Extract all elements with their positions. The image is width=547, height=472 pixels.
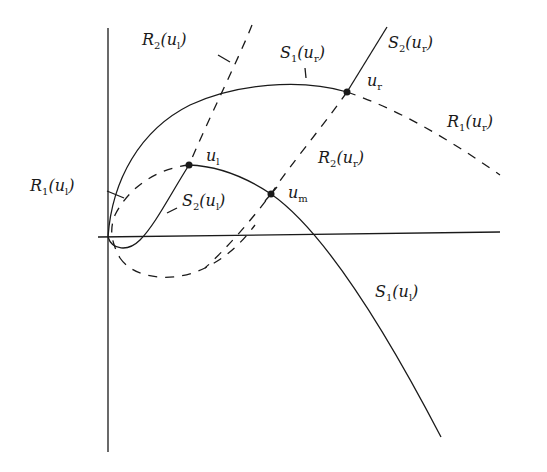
wave-curve-diagram: R2(ul) S1(ur) S2(ur) R1(ur) R2(ur) R1(ul… bbox=[0, 0, 547, 472]
curve-R1-ul-loop bbox=[120, 225, 255, 277]
curve-R2-ul bbox=[189, 25, 252, 165]
curve-S1-ur bbox=[108, 84, 347, 237]
curve-R1-ul bbox=[112, 165, 189, 258]
label-S1-ur: S1(ur) bbox=[280, 45, 325, 64]
label-point-u-m: um bbox=[288, 185, 308, 204]
label-point-u-r: ur bbox=[367, 73, 382, 92]
label-R2-ul: R2(ul) bbox=[142, 32, 186, 51]
leader-S2-ul bbox=[167, 208, 177, 213]
label-R2-ur: R2(ur) bbox=[318, 150, 364, 169]
label-R1-ul: R1(ul) bbox=[30, 178, 74, 197]
leader-R2-ul bbox=[218, 55, 230, 62]
label-R1-ur: R1(ur) bbox=[447, 114, 493, 133]
curve-R1-ur bbox=[347, 92, 500, 175]
diagram-canvas bbox=[0, 0, 547, 472]
horizontal-axis bbox=[98, 232, 500, 237]
label-point-u-l: ul bbox=[206, 148, 220, 167]
curve-R2-ur bbox=[205, 92, 347, 268]
point-u-l bbox=[186, 162, 193, 169]
point-u-m bbox=[268, 191, 275, 198]
label-S1-ul: S1(ul) bbox=[375, 284, 418, 303]
label-S2-ul: S2(ul) bbox=[182, 193, 225, 212]
point-u-r bbox=[344, 89, 351, 96]
label-S2-ur: S2(ur) bbox=[388, 35, 433, 54]
leader-S1-ur bbox=[305, 68, 306, 78]
